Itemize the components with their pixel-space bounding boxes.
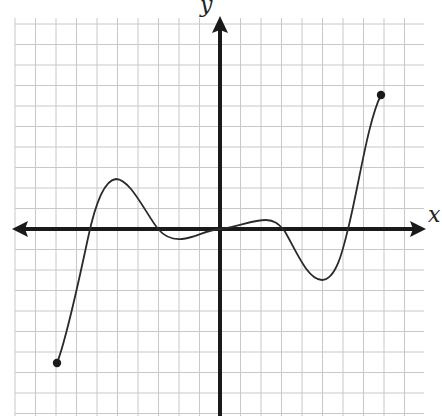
left-endpoint-dot (53, 359, 61, 367)
right-endpoint-dot (377, 91, 385, 99)
x-axis-label: x (428, 202, 441, 227)
function-graph: x y (0, 0, 442, 416)
y-axis-label: y (199, 0, 213, 17)
